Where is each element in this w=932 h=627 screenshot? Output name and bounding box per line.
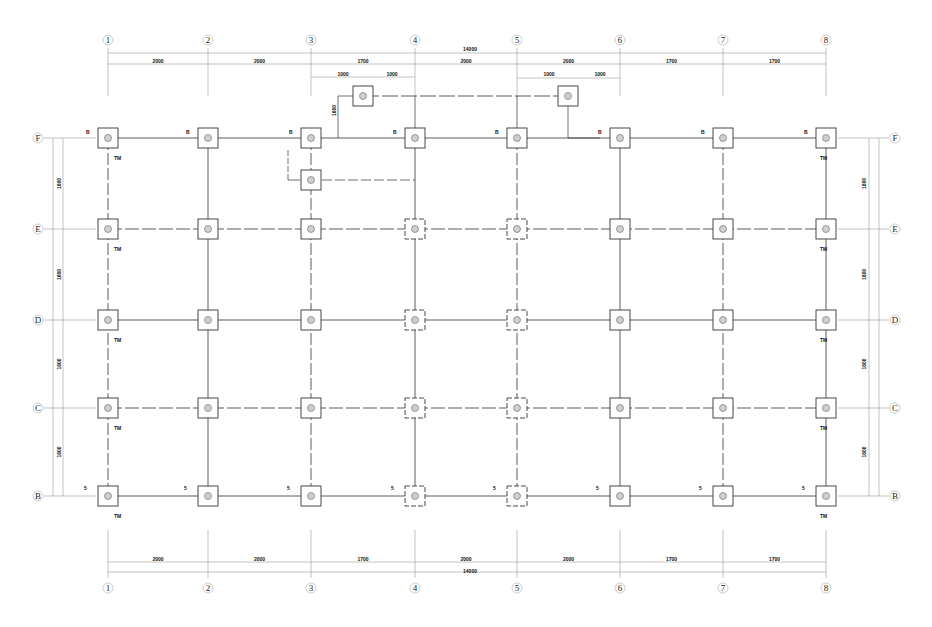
axis-label-right: C <box>892 403 898 413</box>
beam-tag: B <box>186 129 190 135</box>
axis-label-top: 3 <box>309 35 314 45</box>
column-stub-icon <box>205 493 212 500</box>
column-stub-icon <box>412 405 419 412</box>
column-stub-icon <box>617 317 624 324</box>
axis-label-top: 6 <box>618 35 623 45</box>
axis-label-right: D <box>892 315 899 325</box>
column-stub-icon <box>514 317 521 324</box>
dimension-span-bottom: 2000 <box>152 556 163 562</box>
axis-label-bottom: 2 <box>206 583 211 593</box>
axis-label-right: F <box>892 133 897 143</box>
column-tag: TM <box>114 513 121 519</box>
dimension-span-bottom: 2000 <box>254 556 265 562</box>
column-stub-icon <box>105 493 112 500</box>
dimension-span-top: 1700 <box>357 58 368 64</box>
axis-label-left: F <box>35 133 40 143</box>
column-stub-icon <box>308 493 315 500</box>
beam-tag: B <box>598 129 602 135</box>
column-stub-icon <box>205 317 212 324</box>
dimension-span-bottom: 2000 <box>460 556 471 562</box>
axis-label-right: B <box>892 491 898 501</box>
column-stub-icon <box>823 493 830 500</box>
dimension-span-right: 1600 <box>861 446 867 457</box>
axis-label-top: 7 <box>721 35 726 45</box>
column-stub-icon <box>617 226 624 233</box>
column-stub-icon <box>514 405 521 412</box>
column-tag: TM <box>820 425 827 431</box>
dimension-sub-top: 1000 <box>543 71 554 77</box>
column-stub-icon <box>617 493 624 500</box>
axis-label-top: 2 <box>206 35 211 45</box>
dimension-span-left: 1600 <box>56 358 62 369</box>
column-stub-icon <box>720 317 727 324</box>
column-stub-icon <box>617 135 624 142</box>
column-tag: TM <box>820 513 827 519</box>
dimension-span-right: 1600 <box>861 358 867 369</box>
dimension-span-bottom: 1700 <box>357 556 368 562</box>
column-stub-icon <box>105 405 112 412</box>
axis-label-right: E <box>892 224 898 234</box>
beam-tag: 5 <box>802 485 805 491</box>
column-stub-icon <box>205 226 212 233</box>
dimension-span-bottom: 1700 <box>666 556 677 562</box>
column-stub-icon <box>565 93 572 100</box>
column-stub-icon <box>514 226 521 233</box>
dimension-span-top: 2000 <box>460 58 471 64</box>
axis-label-bottom: 4 <box>413 583 418 593</box>
beam-tag: 5 <box>391 485 394 491</box>
axis-label-bottom: 1 <box>106 583 111 593</box>
column-stub-icon <box>720 405 727 412</box>
dimension-span-right: 1600 <box>861 269 867 280</box>
column-stub-icon <box>823 317 830 324</box>
beam-tag: B <box>701 129 705 135</box>
column-tag: TM <box>820 246 827 252</box>
dimension-span-bottom: 1700 <box>769 556 780 562</box>
dimension-span-bottom: 2000 <box>563 556 574 562</box>
axis-label-top: 4 <box>413 35 418 45</box>
column-stub-icon <box>823 405 830 412</box>
axis-label-top: 5 <box>515 35 520 45</box>
beam-tag: 5 <box>184 485 187 491</box>
dimension-span-left: 1600 <box>56 178 62 189</box>
column-stub-icon <box>514 135 521 142</box>
beam-tag: 5 <box>287 485 290 491</box>
dimension-total-top: 14000 <box>463 46 477 52</box>
column-stub-icon <box>105 135 112 142</box>
column-stub-icon <box>823 135 830 142</box>
dimension-sub-top: 1000 <box>594 71 605 77</box>
dimension-sub-top: 1000 <box>386 71 397 77</box>
beam-tag: B <box>804 129 808 135</box>
axis-label-left: B <box>35 491 41 501</box>
column-tag: TM <box>820 337 827 343</box>
column-stub-icon <box>617 405 624 412</box>
column-stub-icon <box>360 93 367 100</box>
column-stub-icon <box>105 317 112 324</box>
column-stub-icon <box>412 317 419 324</box>
column-tag: TM <box>820 155 827 161</box>
column-tag: TM <box>114 425 121 431</box>
axis-label-bottom: 6 <box>618 583 623 593</box>
beam-tag: B <box>495 129 499 135</box>
column-stub-icon <box>308 135 315 142</box>
axis-label-bottom: 3 <box>309 583 314 593</box>
dimension-span-top: 1700 <box>769 58 780 64</box>
dimension-tag: 1600 <box>331 105 337 116</box>
axis-label-left: D <box>35 315 42 325</box>
column-stub-icon <box>308 405 315 412</box>
dimension-span-left: 1600 <box>56 269 62 280</box>
beam-tag: B <box>289 129 293 135</box>
column-stub-icon <box>412 135 419 142</box>
dimension-span-right: 1600 <box>861 178 867 189</box>
column-stub-icon <box>205 135 212 142</box>
dimension-span-top: 2000 <box>254 58 265 64</box>
axis-label-left: E <box>35 224 41 234</box>
beam-tag: 5 <box>84 485 87 491</box>
column-stub-icon <box>823 226 830 233</box>
beam-tag: 5 <box>699 485 702 491</box>
column-stub-icon <box>205 405 212 412</box>
axis-label-bottom: 5 <box>515 583 520 593</box>
column-stub-icon <box>105 226 112 233</box>
column-tag: TM <box>114 337 121 343</box>
axis-label-left: C <box>35 403 41 413</box>
column-stub-icon <box>720 135 727 142</box>
